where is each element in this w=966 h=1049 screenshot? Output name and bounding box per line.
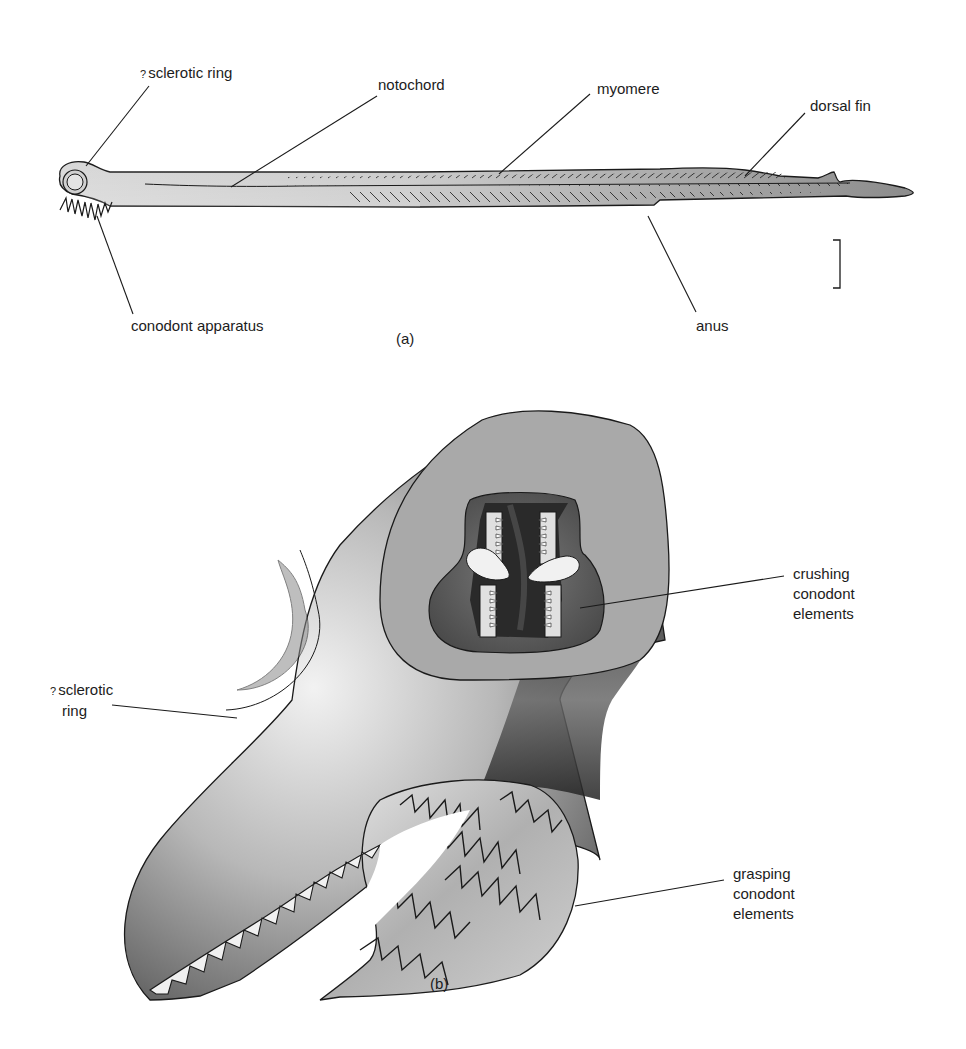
label-dorsal-fin: dorsal fin bbox=[810, 96, 871, 116]
label-sclerotic-ring-b: ?sclerotic ring bbox=[50, 680, 170, 721]
caption-panel-b: (b) bbox=[430, 975, 448, 992]
leader-grasping-elements bbox=[575, 880, 724, 906]
leader-anus bbox=[648, 216, 696, 312]
uncertainty-mark: ? bbox=[140, 68, 146, 80]
crushing-element-lower-right bbox=[543, 585, 561, 637]
label-myomere: myomere bbox=[597, 79, 660, 99]
label-notochord: notochord bbox=[378, 75, 445, 95]
label-grasping-elements: grasping conodont elements bbox=[733, 864, 853, 924]
leader-dorsal-fin bbox=[745, 113, 805, 176]
label-crushing-elements: crushing conodont elements bbox=[793, 564, 913, 624]
crushing-element-lower-left bbox=[480, 585, 498, 637]
scale-bar bbox=[833, 240, 840, 288]
leader-myomere bbox=[499, 94, 590, 174]
label-conodont-apparatus: conodont apparatus bbox=[131, 316, 264, 336]
label-sclerotic-ring-a: ?sclerotic ring bbox=[140, 63, 232, 84]
panel-a-body bbox=[60, 162, 914, 288]
crushing-element-upper-right bbox=[538, 512, 556, 564]
label-anus: anus bbox=[696, 316, 729, 336]
leader-conodont-apparatus bbox=[97, 216, 133, 314]
caption-panel-a: (a) bbox=[396, 330, 414, 347]
panel-b-head bbox=[125, 411, 670, 1000]
leader-sclerotic-ring-a bbox=[86, 86, 149, 166]
uncertainty-mark: ? bbox=[50, 685, 56, 697]
